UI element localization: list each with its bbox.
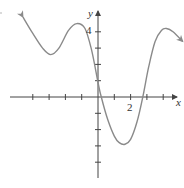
stray-dot <box>0 12 1 13</box>
y-tick-label-4: 4 <box>86 24 92 36</box>
x-axis-label: x <box>175 96 181 108</box>
function-curve <box>23 17 183 144</box>
y-axis-label: y <box>87 7 93 19</box>
x-tick-label-2: 2 <box>127 101 133 113</box>
chart: y 4 2 x <box>0 0 184 188</box>
